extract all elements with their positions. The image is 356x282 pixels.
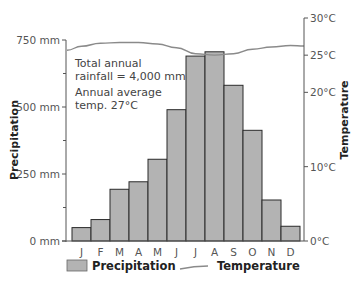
month-label: A xyxy=(135,246,143,258)
climate-chart: 0 mm250 mm500 mm750 mm 0°C10°C20°C25°C30… xyxy=(0,0,356,282)
temperature-tick-label: 25°C xyxy=(310,49,336,61)
temperature-line xyxy=(67,43,304,56)
legend-precipitation-label: Precipitation xyxy=(92,259,176,273)
temperature-tick-label: 10°C xyxy=(310,161,336,173)
month-label: J xyxy=(193,246,197,258)
temperature-axis: 0°C10°C20°C25°C30°C xyxy=(304,12,336,247)
precipitation-bar-n-11 xyxy=(262,200,281,241)
precipitation-bar-a-4 xyxy=(129,182,148,241)
precipitation-axis-title: Precipitation xyxy=(8,100,21,180)
month-label: J xyxy=(79,246,83,258)
annotation-block: Total annual rainfall = 4,000 mm Annual … xyxy=(74,57,186,112)
legend: Precipitation Temperature xyxy=(67,259,300,273)
temperature-tick-label: 20°C xyxy=(310,86,336,98)
month-label: S xyxy=(230,246,237,258)
month-label: J xyxy=(174,246,178,258)
annotation-line-2: rainfall = 4,000 mm xyxy=(75,70,186,83)
precipitation-bar-a-8 xyxy=(205,52,224,241)
precipitation-bar-d-12 xyxy=(281,226,300,241)
precipitation-bar-m-5 xyxy=(148,159,167,241)
annotation-line-4: temp. 27°C xyxy=(75,99,138,112)
precipitation-tick-label: 750 mm xyxy=(16,34,60,46)
month-label: O xyxy=(248,246,256,258)
month-label: A xyxy=(211,246,219,258)
month-label: F xyxy=(97,246,103,258)
month-labels: JFMAMJJASOND xyxy=(79,246,295,258)
precipitation-bar-o-10 xyxy=(243,130,262,241)
temperature-axis-title: Temperature xyxy=(338,80,351,159)
month-label: D xyxy=(286,246,294,258)
annotation-line-1: Total annual xyxy=(74,57,142,70)
precipitation-bar-f-2 xyxy=(91,220,110,241)
temperature-tick-label: 30°C xyxy=(310,12,336,24)
month-label: M xyxy=(153,246,162,258)
temperature-tick-label: 0°C xyxy=(310,235,329,247)
month-label: N xyxy=(268,246,276,258)
precipitation-tick-label: 250 mm xyxy=(16,168,60,180)
precipitation-bar-j-6 xyxy=(167,110,186,241)
legend-precipitation-swatch xyxy=(67,260,87,271)
precipitation-bar-j-1 xyxy=(72,228,91,241)
legend-temperature-label: Temperature xyxy=(217,259,300,273)
legend-temperature-swatch xyxy=(180,266,208,269)
precipitation-tick-label: 0 mm xyxy=(30,235,60,247)
precipitation-bar-j-7 xyxy=(186,56,205,241)
precipitation-bar-s-9 xyxy=(224,85,243,241)
month-label: M xyxy=(115,246,124,258)
annotation-line-3: Annual average xyxy=(75,86,162,99)
climate-graph-svg: 0 mm250 mm500 mm750 mm 0°C10°C20°C25°C30… xyxy=(0,0,356,282)
precipitation-tick-label: 500 mm xyxy=(16,101,60,113)
precipitation-bar-m-3 xyxy=(110,189,129,241)
